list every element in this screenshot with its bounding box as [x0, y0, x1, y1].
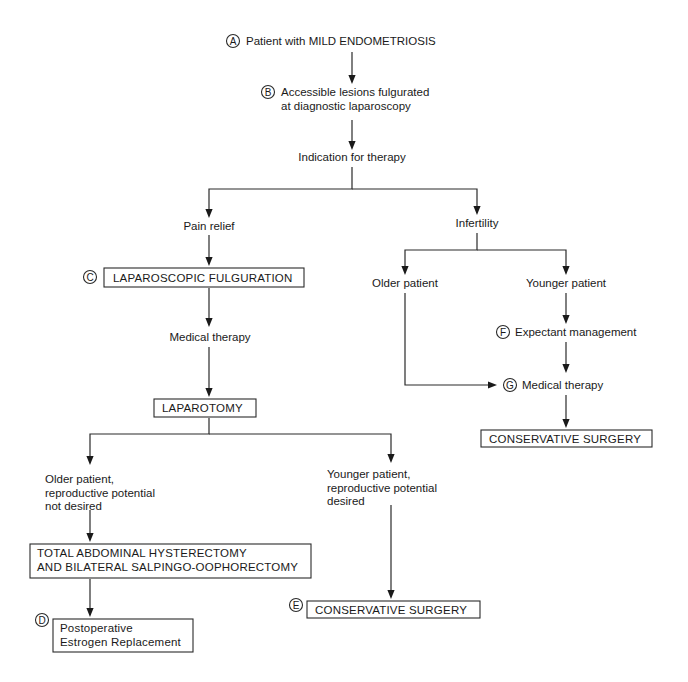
node-fulgurated: Accessible lesions fulguratedat diagnost…: [262, 86, 430, 112]
node-label: Postoperative: [60, 622, 133, 634]
node-label: desired: [327, 495, 365, 507]
edge-older-left-to-tah: [86, 510, 93, 542]
node-laparotomy: LAPAROTOMY: [154, 399, 256, 417]
arrowhead-icon: [348, 75, 355, 84]
edge-expectant-to-medical-right: [562, 342, 569, 373]
node-lap-fulguration: LAPAROSCOPIC FULGURATIONC: [84, 268, 305, 287]
arrowhead-icon: [562, 266, 569, 275]
step-marker-c: C: [84, 271, 97, 284]
arrowhead-icon: [86, 456, 93, 465]
arrowhead-icon: [86, 533, 93, 542]
edge-medical-left-to-laparotomy: [205, 347, 212, 397]
node-younger-right: Younger patient: [526, 277, 607, 289]
node-label: TOTAL ABDOMINAL HYSTERECTOMY: [37, 547, 247, 559]
arrowhead-icon: [205, 318, 212, 327]
arrowhead-icon: [387, 590, 394, 599]
node-medical-left: Medical therapy: [169, 331, 250, 343]
connector-line: [405, 233, 477, 269]
arrowhead-icon: [401, 266, 408, 275]
arrowhead-icon: [562, 364, 569, 373]
arrowhead-icon: [205, 257, 212, 266]
arrowhead-icon: [348, 141, 355, 150]
node-label: CONSERVATIVE SURGERY: [315, 604, 467, 616]
node-younger-left: Younger patient,reproductive potentialde…: [327, 468, 437, 507]
edge-indication-to-infertility: [352, 189, 481, 215]
arrowhead-icon: [387, 454, 394, 463]
node-label: Expectant management: [515, 326, 637, 338]
node-label: not desired: [45, 500, 102, 512]
edge-infertility-to-younger-right: [477, 250, 570, 275]
node-label: Estrogen Replacement: [60, 636, 182, 648]
node-medical-right: Medical therapyG: [504, 379, 604, 392]
node-pain: Pain relief: [183, 220, 235, 232]
node-label: Infertility: [456, 217, 499, 229]
node-label: Patient with MILD ENDOMETRIOSIS: [246, 35, 436, 47]
step-marker-e: E: [290, 599, 303, 612]
edge-medical-right-to-conservative-right: [562, 395, 569, 428]
node-label: Older patient,: [45, 473, 114, 485]
marker-letter: E: [293, 600, 300, 611]
node-label: at diagnostic laparoscopy: [281, 100, 411, 112]
step-marker-b: B: [262, 86, 275, 99]
edge-pain-to-lap-fulguration: [205, 235, 212, 266]
flowchart-canvas: Patient with MILD ENDOMETRIOSISAAccessib…: [0, 0, 688, 682]
connector-line: [209, 167, 352, 212]
node-conservative-left: CONSERVATIVE SURGERYE: [290, 599, 481, 619]
node-indication: Indication for therapy: [298, 151, 406, 163]
edge-start-to-fulgurated: [348, 52, 355, 84]
edge-tah-to-estrogen: [86, 579, 93, 617]
marker-letter: G: [506, 380, 514, 391]
node-tah: TOTAL ABDOMINAL HYSTERECTOMYAND BILATERA…: [30, 544, 311, 578]
node-expectant: Expectant managementF: [497, 326, 638, 339]
step-marker-f: F: [497, 326, 510, 339]
connector-line: [352, 189, 477, 209]
node-older-right: Older patient: [372, 277, 439, 289]
edge-laparotomy-to-older-left: [86, 418, 209, 465]
marker-letter: D: [38, 615, 45, 626]
connector-line: [405, 293, 491, 385]
marker-letter: A: [230, 36, 237, 47]
marker-letter: C: [86, 272, 93, 283]
edge-older-right-to-medical-right: [405, 293, 497, 389]
node-label: Younger patient,: [327, 468, 410, 480]
step-marker-g: G: [504, 379, 517, 392]
node-label: CONSERVATIVE SURGERY: [489, 433, 641, 445]
node-conservative-right: CONSERVATIVE SURGERY: [481, 430, 652, 447]
arrowhead-icon: [86, 608, 93, 617]
edge-younger-right-to-expectant: [562, 293, 569, 324]
node-label: Medical therapy: [169, 331, 250, 343]
marker-letter: B: [265, 87, 272, 98]
edge-lap-fulguration-to-medical-left: [205, 288, 212, 327]
marker-letter: F: [500, 327, 506, 338]
node-start: Patient with MILD ENDOMETRIOSISA: [227, 35, 437, 48]
node-infertility: Infertility: [456, 217, 499, 229]
edge-infertility-to-older-right: [401, 233, 477, 275]
nodes: Patient with MILD ENDOMETRIOSISAAccessib…: [30, 35, 652, 653]
node-label: Accessible lesions fulgurated: [281, 86, 429, 98]
arrowhead-icon: [488, 381, 497, 388]
connector-line: [209, 434, 391, 457]
arrowhead-icon: [205, 388, 212, 397]
node-older-left: Older patient,reproductive potentialnot …: [45, 473, 155, 512]
node-label: reproductive potential: [327, 482, 437, 494]
arrowhead-icon: [473, 206, 480, 215]
arrowhead-icon: [562, 315, 569, 324]
node-label: LAPAROTOMY: [162, 402, 243, 414]
connector-line: [90, 418, 209, 459]
node-label: LAPAROSCOPIC FULGURATION: [113, 272, 292, 284]
arrowhead-icon: [205, 209, 212, 218]
node-label: Medical therapy: [522, 379, 603, 391]
arrowhead-icon: [562, 419, 569, 428]
edge-fulgurated-to-indication: [348, 120, 355, 150]
connector-line: [477, 250, 566, 269]
edge-indication-to-pain: [205, 167, 352, 218]
step-marker-d: D: [36, 614, 49, 627]
edge-younger-left-to-conservative-left: [387, 505, 394, 599]
node-label: AND BILATERAL SALPINGO-OOPHORECTOMY: [37, 561, 298, 573]
node-label: Younger patient: [526, 277, 607, 289]
node-estrogen: PostoperativeEstrogen ReplacementD: [36, 614, 194, 653]
node-label: Older patient: [372, 277, 439, 289]
node-label: reproductive potential: [45, 487, 155, 499]
node-label: Pain relief: [183, 220, 235, 232]
step-marker-a: A: [227, 35, 240, 48]
